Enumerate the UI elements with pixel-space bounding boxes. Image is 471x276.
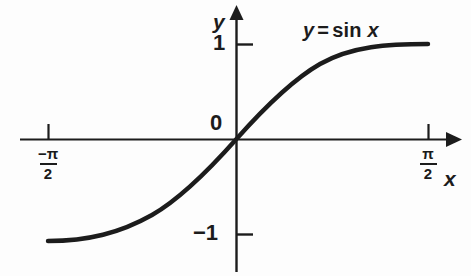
sine-curve: [48, 44, 428, 241]
y-axis-label: y: [213, 11, 225, 32]
plot-canvas: [0, 0, 471, 276]
fraction-numerator: π: [413, 146, 443, 163]
equation-label: y=sin x: [303, 20, 379, 40]
equation-argument: x: [367, 19, 378, 41]
equation-operator: =: [314, 19, 332, 41]
equation-function: sin: [332, 19, 362, 41]
sine-graph-figure: y x 1 0 −1 −π 2 π 2 y=sin x: [0, 0, 471, 276]
x-tick-label-half-pi: π 2: [413, 146, 443, 182]
origin-label: 0: [210, 112, 222, 134]
x-tick-label-neg-half-pi: −π 2: [33, 146, 63, 182]
fraction-denominator: 2: [413, 165, 443, 182]
y-tick-label-one: 1: [213, 32, 225, 54]
x-axis-label: x: [444, 168, 456, 189]
x-axis-arrowhead: [446, 132, 462, 147]
y-axis-arrowhead: [230, 5, 244, 20]
fraction-numerator: −π: [33, 146, 63, 163]
y-tick-label-neg-one: −1: [193, 222, 218, 244]
equation-lhs: y: [303, 19, 314, 41]
fraction-denominator: 2: [33, 165, 63, 182]
